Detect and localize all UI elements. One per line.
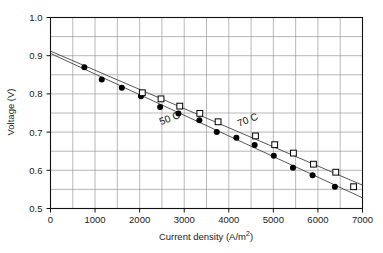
- data-point: [290, 165, 296, 171]
- y-tick-label: 0.6: [29, 165, 42, 176]
- x-tick-label: 0: [48, 214, 53, 225]
- data-point: [291, 150, 297, 156]
- x-tick-label: 1000: [85, 214, 106, 225]
- data-point: [214, 129, 220, 135]
- x-axis-title: Current density (A/m2): [159, 230, 253, 242]
- x-tick-label: 7000: [352, 214, 373, 225]
- y-axis-title: Voltage (V): [5, 89, 16, 136]
- chart-figure: 01000200030004000500060007000 0.50.60.70…: [0, 0, 383, 253]
- x-tick-label: 5000: [263, 214, 284, 225]
- data-point: [252, 142, 258, 148]
- y-tick-label: 0.9: [29, 50, 42, 61]
- data-point: [272, 142, 278, 148]
- svg-text:Current density (A/m2): Current density (A/m2): [159, 230, 253, 242]
- data-point: [119, 85, 125, 91]
- y-tick-label: 0.7: [29, 127, 42, 138]
- x-tick-label: 3000: [174, 214, 195, 225]
- data-point: [196, 117, 202, 123]
- data-point: [197, 110, 203, 116]
- data-point: [311, 161, 317, 167]
- data-point: [271, 153, 277, 159]
- y-tick-label: 1.0: [29, 12, 42, 23]
- data-point: [215, 119, 221, 125]
- y-tick-label: 0.8: [29, 88, 42, 99]
- data-point: [177, 103, 183, 109]
- data-point: [157, 104, 163, 110]
- data-point: [253, 133, 259, 139]
- data-point: [99, 76, 105, 82]
- data-point: [310, 172, 316, 178]
- y-axis-title-text: Voltage (V): [5, 89, 16, 136]
- x-axis-title-tail: ): [250, 231, 253, 242]
- x-tick-label: 6000: [307, 214, 328, 225]
- data-point: [351, 184, 357, 190]
- voltage-vs-current-density-chart: 01000200030004000500060007000 0.50.60.70…: [0, 0, 383, 253]
- data-point: [81, 64, 87, 70]
- data-point: [333, 169, 339, 175]
- x-axis-title-text: Current density (A/m: [159, 231, 246, 242]
- data-point: [233, 135, 239, 141]
- x-tick-label: 4000: [218, 214, 239, 225]
- data-point: [332, 184, 338, 190]
- data-point: [139, 90, 145, 96]
- x-tick-label: 2000: [129, 214, 150, 225]
- data-point: [158, 96, 164, 102]
- y-tick-label: 0.5: [29, 203, 42, 214]
